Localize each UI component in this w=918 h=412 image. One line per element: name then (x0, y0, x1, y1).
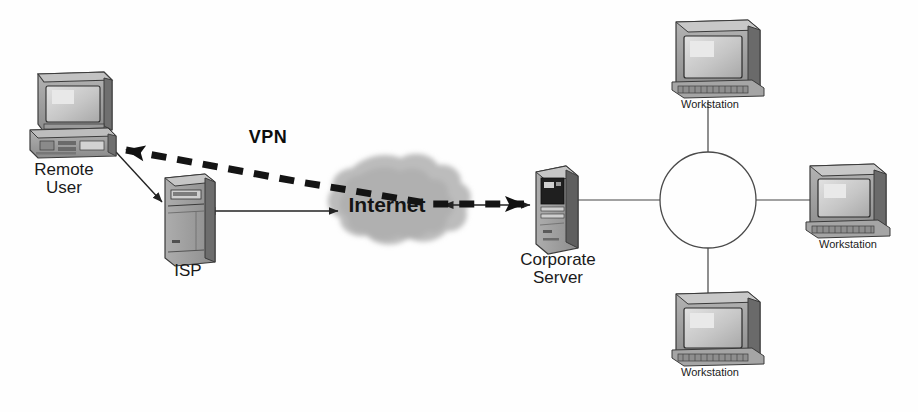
desktop-computer-icon (30, 72, 116, 158)
workstation-bottom-label: Workstation (660, 367, 760, 379)
network-diagram: Remote User ISP Internet VPN Corporate S… (0, 0, 918, 412)
remote-user-label-line2: User (8, 179, 120, 197)
vpn-label: VPN (233, 128, 303, 147)
corporate-server-label: Corporate Server (494, 251, 622, 287)
connector-remote-to-isp (116, 152, 162, 202)
isp-label: ISP (150, 262, 226, 280)
diagram-canvas (0, 0, 918, 412)
workstation-top-label: Workstation (660, 99, 760, 111)
ring-circle-icon (660, 152, 756, 248)
internet-label: Internet (325, 194, 449, 216)
workstation-monitor-icon-top (672, 20, 764, 98)
remote-user-label-line1: Remote (8, 161, 120, 179)
remote-user-label: Remote User (8, 161, 120, 197)
server-tower-icon-corporate (536, 166, 578, 254)
corporate-server-label-line2: Server (494, 269, 622, 287)
server-tower-icon-isp (165, 174, 215, 266)
corporate-server-label-line1: Corporate (494, 251, 622, 269)
workstation-monitor-icon-bottom (672, 292, 764, 366)
workstation-monitor-icon-right (806, 164, 890, 238)
workstation-right-label: Workstation (798, 239, 898, 251)
